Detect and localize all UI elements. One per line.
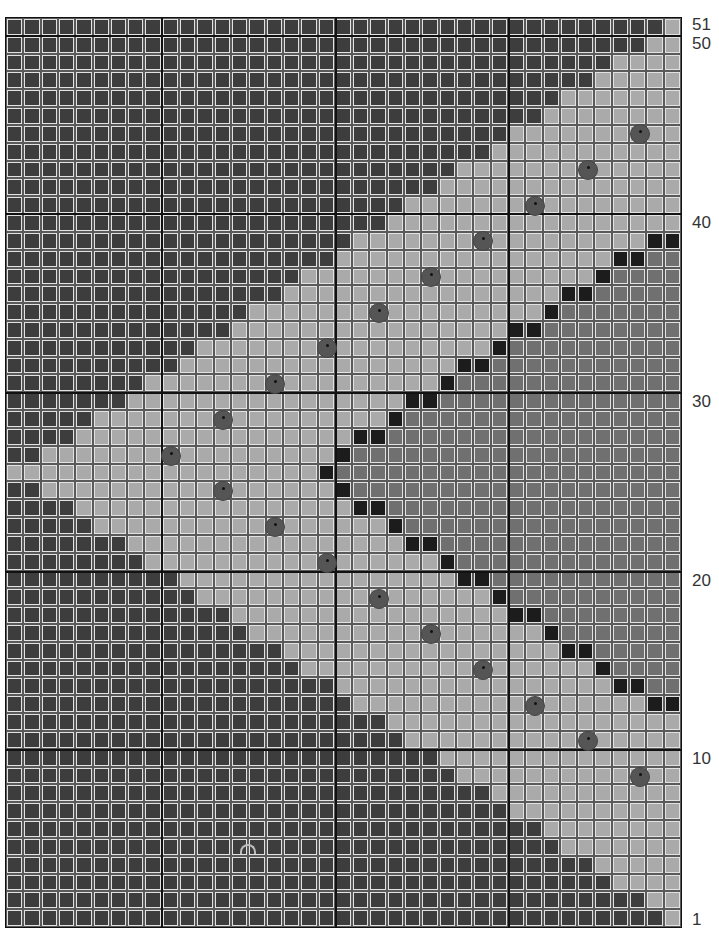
stitch-cell bbox=[560, 606, 577, 624]
stitch-cell bbox=[646, 178, 663, 196]
stitch-cell bbox=[369, 392, 386, 410]
stitch-cell bbox=[266, 874, 283, 892]
stitch-cell bbox=[231, 820, 248, 838]
stitch-cell bbox=[179, 125, 196, 143]
stitch-cell bbox=[664, 535, 681, 553]
stitch-cell bbox=[646, 660, 663, 678]
stitch-cell bbox=[629, 339, 646, 357]
stitch-cell bbox=[75, 481, 92, 499]
stitch-cell bbox=[560, 588, 577, 606]
stitch-cell bbox=[318, 571, 335, 589]
stitch-cell bbox=[612, 71, 629, 89]
stitch-cell bbox=[369, 196, 386, 214]
stitch-cell bbox=[439, 606, 456, 624]
stitch-cell bbox=[196, 713, 213, 731]
stitch-cell bbox=[543, 285, 560, 303]
stitch-cell bbox=[456, 161, 473, 179]
stitch-cell bbox=[75, 285, 92, 303]
stitch-cell bbox=[508, 446, 525, 464]
stitch-cell bbox=[473, 303, 490, 321]
stitch-cell bbox=[318, 464, 335, 482]
stitch-cell bbox=[664, 268, 681, 286]
stitch-cell bbox=[93, 268, 110, 286]
stitch-cell bbox=[231, 125, 248, 143]
stitch-cell bbox=[439, 285, 456, 303]
stitch-cell bbox=[58, 410, 75, 428]
stitch-cell bbox=[646, 499, 663, 517]
stitch-cell bbox=[248, 303, 265, 321]
stitch-cell bbox=[75, 357, 92, 375]
stitch-cell bbox=[41, 677, 58, 695]
stitch-cell bbox=[58, 303, 75, 321]
stitch-cell bbox=[318, 178, 335, 196]
stitch-cell bbox=[612, 232, 629, 250]
stitch-cell bbox=[594, 749, 611, 767]
stitch-cell bbox=[612, 642, 629, 660]
stitch-cell bbox=[664, 285, 681, 303]
stitch-cell bbox=[560, 196, 577, 214]
stitch-cell bbox=[93, 36, 110, 54]
stitch-cell bbox=[335, 874, 352, 892]
stitch-cell bbox=[473, 767, 490, 785]
stitch-cell bbox=[162, 428, 179, 446]
stitch-cell bbox=[369, 784, 386, 802]
stitch-cell bbox=[23, 268, 40, 286]
stitch-cell bbox=[179, 339, 196, 357]
stitch-cell bbox=[318, 517, 335, 535]
stitch-cell bbox=[58, 713, 75, 731]
stitch-cell bbox=[629, 677, 646, 695]
stitch-cell bbox=[144, 285, 161, 303]
stitch-cell bbox=[525, 891, 542, 909]
stitch-cell bbox=[75, 107, 92, 125]
stitch-cell bbox=[214, 321, 231, 339]
stitch-cell bbox=[543, 410, 560, 428]
stitch-cell bbox=[318, 481, 335, 499]
stitch-cell bbox=[491, 54, 508, 72]
stitch-cell bbox=[318, 410, 335, 428]
stitch-cell bbox=[266, 71, 283, 89]
stitch-cell bbox=[214, 784, 231, 802]
stitch-cell bbox=[560, 660, 577, 678]
stitch-cell bbox=[612, 410, 629, 428]
stitch-cell bbox=[144, 481, 161, 499]
stitch-cell bbox=[58, 588, 75, 606]
stitch-cell bbox=[266, 392, 283, 410]
stitch-cell bbox=[144, 571, 161, 589]
stitch-cell bbox=[127, 178, 144, 196]
stitch-cell bbox=[283, 677, 300, 695]
stitch-cell bbox=[404, 838, 421, 856]
stitch-cell bbox=[283, 891, 300, 909]
stitch-cell bbox=[318, 321, 335, 339]
stitch-cell bbox=[439, 838, 456, 856]
stitch-cell bbox=[283, 303, 300, 321]
stitch-cell bbox=[93, 660, 110, 678]
stitch-cell bbox=[127, 749, 144, 767]
stitch-cell bbox=[612, 874, 629, 892]
stitch-cell bbox=[456, 321, 473, 339]
stitch-cell bbox=[93, 588, 110, 606]
stitch-cell bbox=[41, 339, 58, 357]
stitch-cell bbox=[491, 303, 508, 321]
stitch-cell bbox=[629, 196, 646, 214]
stitch-cell bbox=[93, 517, 110, 535]
stitch-cell bbox=[646, 196, 663, 214]
stitch-cell bbox=[144, 909, 161, 927]
stitch-cell bbox=[439, 909, 456, 927]
stitch-cell bbox=[646, 624, 663, 642]
stitch-cell bbox=[283, 196, 300, 214]
major-gridline-vertical bbox=[161, 18, 163, 927]
stitch-cell bbox=[456, 71, 473, 89]
stitch-cell bbox=[248, 874, 265, 892]
stitch-cell bbox=[560, 642, 577, 660]
stitch-cell bbox=[231, 446, 248, 464]
stitch-cell bbox=[664, 89, 681, 107]
stitch-cell bbox=[75, 178, 92, 196]
stitch-cell bbox=[612, 499, 629, 517]
stitch-cell bbox=[23, 107, 40, 125]
stitch-cell bbox=[214, 891, 231, 909]
stitch-cell bbox=[110, 232, 127, 250]
stitch-cell bbox=[144, 214, 161, 232]
stitch-cell bbox=[41, 161, 58, 179]
stitch-cell bbox=[594, 357, 611, 375]
stitch-cell bbox=[404, 357, 421, 375]
